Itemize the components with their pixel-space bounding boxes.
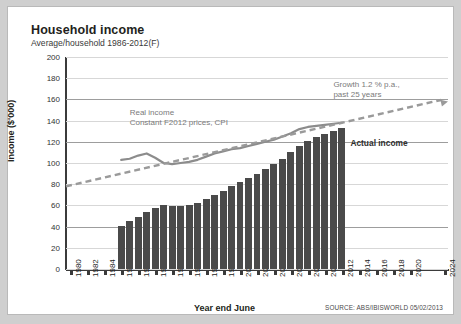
x-tick-1994 xyxy=(189,271,192,275)
x-tick-2000 xyxy=(240,271,243,275)
x-tick-2016 xyxy=(376,271,379,275)
growth-trend-arrow-icon xyxy=(440,100,448,107)
x-tick-2004 xyxy=(274,271,277,275)
chart-subtitle: Average/household 1986-2012(F) xyxy=(31,38,159,48)
y-tick-label-180: 180 xyxy=(34,74,60,83)
y-axis-title: Income ($'000) xyxy=(6,100,16,162)
x-tick-2010 xyxy=(325,271,328,275)
y-tick-label-80: 80 xyxy=(34,180,60,189)
screenshot-root: Household income Average/household 1986-… xyxy=(0,0,461,324)
x-tick-2014 xyxy=(359,271,362,275)
y-tick-label-140: 140 xyxy=(34,116,60,125)
annotation-real-income-line2: Constant F2012 prices, CPI xyxy=(130,118,228,128)
annotation-growth-line1: Growth 1.2 % p.a., xyxy=(333,80,399,90)
x-tick-1996 xyxy=(206,271,209,275)
annotation-real-income-line1: Real income xyxy=(130,108,228,118)
x-tick-1984 xyxy=(104,271,107,275)
real-income-line xyxy=(121,123,342,164)
x-tick-1992 xyxy=(172,271,175,275)
x-tick-1990 xyxy=(155,271,158,275)
y-tick-label-160: 160 xyxy=(34,95,60,104)
y-tick-label-100: 100 xyxy=(34,159,60,168)
x-tick-label-2024: 2024 xyxy=(448,259,457,277)
x-tick-2006 xyxy=(291,271,294,275)
x-tick-1980 xyxy=(70,271,73,275)
gridline-0 xyxy=(66,269,448,270)
x-tick-1982 xyxy=(87,271,90,275)
x-tick-1988 xyxy=(138,271,141,275)
chart-card: Household income Average/household 1986-… xyxy=(7,6,454,315)
annotation-growth: Growth 1.2 % p.a., past 25 years xyxy=(333,80,399,100)
y-tick-label-0: 0 xyxy=(34,265,60,274)
source-note: SOURCE: ABS/IBISWORLD 05/02/2013 xyxy=(325,304,443,311)
x-tick-2020 xyxy=(410,271,413,275)
y-tick-label-200: 200 xyxy=(34,53,60,62)
annotation-real-income: Real income Constant F2012 prices, CPI xyxy=(130,108,228,128)
x-tick-2024 xyxy=(444,271,447,275)
x-axis-title: Year end June xyxy=(194,303,255,313)
x-tick-1998 xyxy=(223,271,226,275)
x-tick-2002 xyxy=(257,271,260,275)
page-title: Household income xyxy=(31,23,144,37)
y-tick-label-120: 120 xyxy=(34,137,60,146)
x-tick-2012 xyxy=(342,271,345,275)
annotation-growth-line2: past 25 years xyxy=(333,90,399,100)
x-tick-2008 xyxy=(308,271,311,275)
x-tick-1986 xyxy=(121,271,124,275)
annotation-actual-income: Actual income xyxy=(350,138,407,148)
y-tick-label-40: 40 xyxy=(34,222,60,231)
x-tick-2018 xyxy=(393,271,396,275)
y-tick-label-20: 20 xyxy=(34,243,60,252)
y-tick-label-60: 60 xyxy=(34,201,60,210)
